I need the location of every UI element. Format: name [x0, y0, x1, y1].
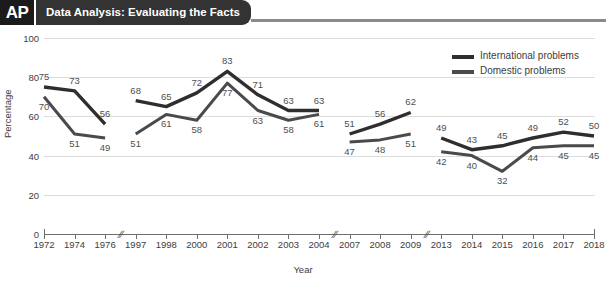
data-point-label: 62 — [405, 96, 416, 107]
y-tick-label: 80 — [28, 72, 39, 83]
data-point-label: 63 — [283, 95, 294, 106]
data-point-label: 65 — [161, 91, 172, 102]
data-point-label: 49 — [100, 142, 111, 153]
data-point-label: 50 — [589, 120, 600, 131]
data-point-label: 56 — [100, 108, 111, 119]
data-point-label: 83 — [222, 55, 233, 66]
x-tick-label: 1972 — [33, 239, 54, 250]
x-tick-label: 2018 — [583, 239, 604, 250]
data-point-label: 44 — [528, 152, 539, 163]
x-tick-label: 2007 — [339, 239, 360, 250]
data-point-label: 61 — [161, 118, 172, 129]
data-point-label: 61 — [314, 118, 325, 129]
x-tick-label: 2014 — [461, 239, 482, 250]
y-tick-label: 60 — [28, 111, 39, 122]
legend-label-international: International problems — [480, 50, 579, 61]
data-point-label: 63 — [314, 95, 325, 106]
x-tick-label: 2017 — [553, 239, 574, 250]
data-point-label: 32 — [497, 175, 508, 186]
y-tick-label: 20 — [28, 189, 39, 200]
chart-screenshot: AP Data Analysis: Evaluating the Facts 0… — [0, 0, 606, 284]
x-tick-label: 2002 — [247, 239, 268, 250]
x-tick-label: 2013 — [431, 239, 452, 250]
series-polyline — [44, 97, 105, 138]
data-point-label: 51 — [69, 138, 80, 149]
x-tick-label: 2015 — [492, 239, 513, 250]
y-tick-label: 0 — [34, 229, 39, 240]
y-tick-label: 100 — [23, 33, 39, 44]
data-point-label: 52 — [558, 116, 569, 127]
page-title: Data Analysis: Evaluating the Facts — [46, 0, 240, 25]
x-tick-label: 2016 — [522, 239, 543, 250]
data-point-label: 58 — [191, 124, 202, 135]
data-point-label: 45 — [558, 150, 569, 161]
data-point-label: 47 — [344, 146, 355, 157]
data-point-label: 43 — [466, 134, 477, 145]
data-point-label: 49 — [528, 122, 539, 133]
y-axis-title: Percentage — [2, 89, 13, 138]
series-polyline — [441, 146, 594, 172]
x-tick-label: 2001 — [217, 239, 238, 250]
x-tick-label: 2000 — [186, 239, 207, 250]
x-tick-label: 1997 — [125, 239, 146, 250]
ap-header-bar: AP Data Analysis: Evaluating the Facts — [0, 0, 606, 26]
x-tick-label: 1976 — [95, 239, 116, 250]
ap-logo: AP — [0, 0, 34, 25]
data-point-label: 40 — [466, 160, 477, 171]
x-tick-label: 1998 — [156, 239, 177, 250]
data-point-label: 51 — [405, 138, 416, 149]
legend-swatch-domestic — [452, 70, 474, 74]
data-point-label: 68 — [130, 85, 141, 96]
data-point-label: 75 — [39, 71, 50, 82]
data-point-label: 71 — [253, 79, 264, 90]
data-point-label: 63 — [253, 115, 264, 126]
x-tick-label: 1974 — [64, 239, 85, 250]
data-point-label: 58 — [283, 124, 294, 135]
data-point-label: 72 — [191, 77, 202, 88]
header-banner: Data Analysis: Evaluating the Facts — [36, 0, 251, 25]
data-point-label: 51 — [130, 138, 141, 149]
data-point-label: 70 — [39, 101, 50, 112]
data-point-label: 49 — [436, 122, 447, 133]
x-tick-label: 2008 — [370, 239, 391, 250]
x-tick-label: 2004 — [308, 239, 329, 250]
data-point-label: 48 — [375, 144, 386, 155]
data-point-label: 73 — [69, 75, 80, 86]
x-tick-label: 2003 — [278, 239, 299, 250]
data-point-label: 45 — [589, 150, 600, 161]
header-divider-rule — [251, 19, 606, 22]
data-point-label: 42 — [436, 156, 447, 167]
data-point-label: 45 — [497, 130, 508, 141]
data-point-label: 77 — [222, 87, 233, 98]
data-point-label: 51 — [344, 118, 355, 129]
data-point-label: 56 — [375, 108, 386, 119]
y-tick-label: 40 — [28, 150, 39, 161]
legend-swatch-international — [452, 55, 474, 59]
legend-label-domestic: Domestic problems — [480, 65, 566, 76]
x-tick-label: 2009 — [400, 239, 421, 250]
x-axis-title: Year — [0, 264, 606, 275]
series-polyline — [350, 134, 411, 142]
